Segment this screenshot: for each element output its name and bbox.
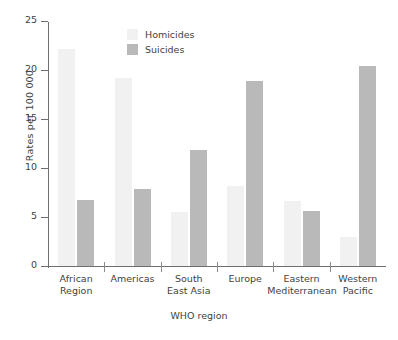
category-separator [330, 262, 331, 272]
category-separator [217, 262, 218, 272]
bar-suicides-south-east-asia [190, 150, 207, 266]
category-separator [273, 262, 274, 272]
bar-homicides-western-pacific [340, 237, 357, 266]
category-label-line: Pacific [324, 285, 392, 297]
y-axis-line [48, 22, 49, 268]
category-separator [161, 262, 162, 272]
category-separator [104, 262, 105, 272]
y-axis-tick: 0 [41, 266, 48, 267]
bar-chart: Rates per 100 000 0510152025 AfricanRegi… [0, 0, 398, 340]
bar-homicides-americas [115, 78, 132, 266]
category-label-line: East Asia [155, 285, 223, 297]
y-axis-tick: 5 [41, 217, 48, 218]
y-axis-tick-label: 0 [31, 259, 37, 270]
bar-homicides-eastern-mediterranean [284, 201, 301, 266]
y-axis-tick: 25 [41, 21, 48, 22]
legend-label: Homicides [145, 29, 195, 40]
bar-suicides-western-pacific [359, 66, 376, 266]
legend-swatch-icon [127, 44, 138, 55]
bar-suicides-eastern-mediterranean [303, 211, 320, 266]
bar-suicides-african-region [77, 200, 94, 266]
x-axis-title: WHO region [0, 310, 398, 321]
bar-group [115, 21, 151, 266]
y-axis-tick-label: 10 [25, 161, 37, 172]
bar-suicides-europe [246, 81, 263, 266]
bar-suicides-americas [134, 189, 151, 266]
bar-group [58, 21, 94, 266]
bar-group [171, 21, 207, 266]
plot-area: 0510152025 [48, 22, 386, 267]
legend-item-suicides: Suicides [127, 42, 195, 56]
category-label-line: Western [324, 273, 392, 285]
legend-item-homicides: Homicides [127, 27, 195, 41]
y-axis-tick: 15 [41, 119, 48, 120]
y-axis-tick-label: 5 [31, 210, 37, 221]
legend-swatch-icon [127, 29, 138, 40]
y-axis-tick-label: 25 [25, 14, 37, 25]
bar-homicides-europe [227, 186, 244, 266]
bar-homicides-african-region [58, 49, 75, 266]
y-axis-tick: 10 [41, 168, 48, 169]
y-axis-tick: 20 [41, 70, 48, 71]
bar-group [340, 21, 376, 266]
chart-legend: HomicidesSuicides [127, 27, 195, 57]
category-label-western-pacific: WesternPacific [324, 273, 392, 296]
bar-group [284, 21, 320, 266]
legend-label: Suicides [145, 44, 184, 55]
bar-homicides-south-east-asia [171, 212, 188, 266]
y-axis-tick-label: 20 [25, 63, 37, 74]
bar-group [227, 21, 263, 266]
category-label-line: Region [42, 285, 110, 297]
y-axis-tick-label: 15 [25, 112, 37, 123]
